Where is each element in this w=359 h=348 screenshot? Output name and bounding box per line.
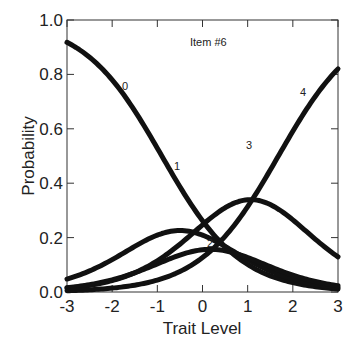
- item-characteristic-chart: -3-2-101230.00.20.40.60.81.0 Item #6 0 1…: [0, 0, 359, 348]
- y-axis-title: Probability: [19, 116, 38, 196]
- y-tick-label: 0.4: [39, 174, 63, 193]
- curve-label-4: 4: [300, 86, 306, 98]
- curve-label-3: 3: [246, 139, 252, 151]
- x-tick-label: 3: [333, 297, 342, 316]
- annotation-item-label: Item #6: [190, 36, 227, 48]
- x-tick-label: -2: [105, 297, 120, 316]
- x-tick-label: 2: [288, 297, 297, 316]
- x-tick-label: -1: [150, 297, 165, 316]
- curves: [67, 42, 338, 290]
- x-tick-label: 1: [243, 297, 252, 316]
- x-tick-label: 0: [198, 297, 207, 316]
- y-tick-label: 0.8: [39, 65, 63, 84]
- y-tick-label: 0.0: [39, 283, 63, 302]
- x-axis-title: Trait Level: [163, 319, 242, 338]
- curve-label-2: 2: [207, 237, 213, 249]
- curve-label-1: 1: [174, 160, 180, 172]
- y-tick-label: 1.0: [39, 11, 63, 30]
- curve-label-0: 0: [122, 80, 128, 92]
- y-tick-label: 0.6: [39, 120, 63, 139]
- y-tick-label: 0.2: [39, 229, 63, 248]
- category-curve-4: [67, 69, 338, 291]
